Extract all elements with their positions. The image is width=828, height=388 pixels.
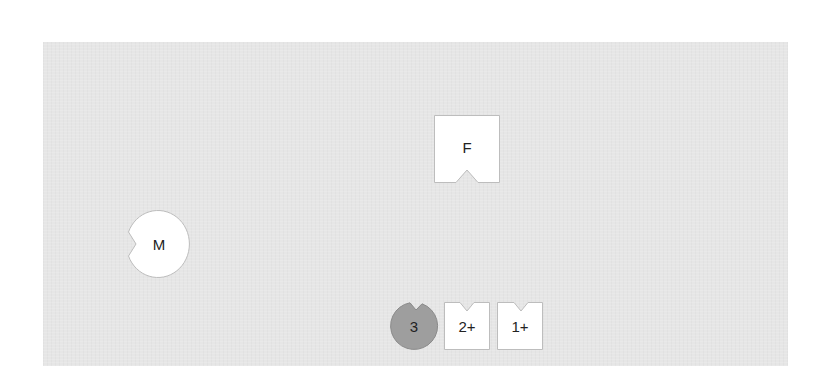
shape-m-circle-left-notch: M bbox=[124, 210, 188, 278]
shape-1plus-square-top-notch: 1+ bbox=[497, 302, 543, 350]
shape-f-square-bottom-notch: F bbox=[434, 115, 500, 183]
shape-label: 2+ bbox=[444, 318, 490, 335]
shape-2plus-square-top-notch: 2+ bbox=[444, 302, 490, 350]
shape-3-circle-top-notch: 3 bbox=[390, 302, 438, 350]
shape-label: F bbox=[434, 139, 500, 156]
shape-label: M bbox=[127, 236, 191, 253]
shape-label: 3 bbox=[390, 318, 438, 335]
shape-label: 1+ bbox=[497, 318, 543, 335]
